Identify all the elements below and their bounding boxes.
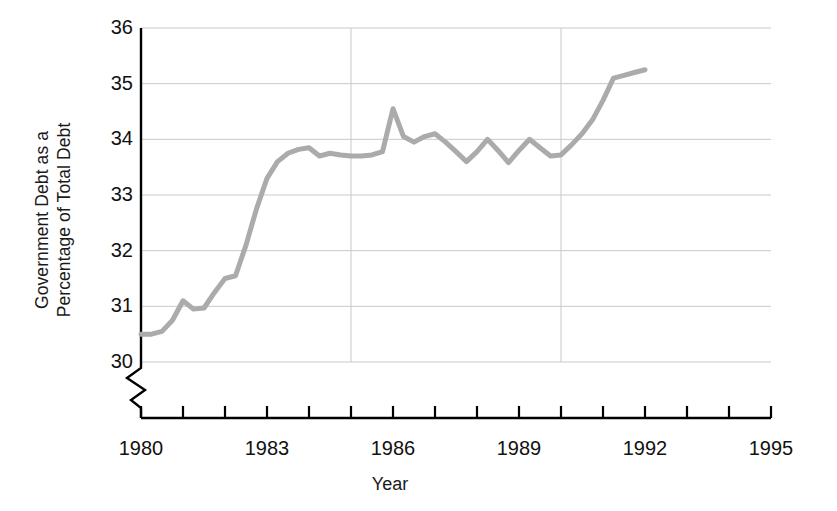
- x-tick-label-1983: 1983: [222, 437, 312, 459]
- y-tick-label-34: 34: [15, 128, 133, 148]
- y-tick-label-32: 32: [15, 240, 133, 260]
- axis-lines: [127, 28, 771, 418]
- x-tick-label-1992: 1992: [600, 437, 690, 459]
- x-axis-tick-labels: 198019831986198919921995: [0, 437, 837, 465]
- y-tick-label-35: 35: [15, 73, 133, 93]
- y-tick-label-33: 33: [15, 184, 133, 204]
- chart-figure: Government Debt as a Percentage of Total…: [0, 0, 837, 511]
- data-series-line: [141, 70, 645, 334]
- x-axis-tick-marks: [141, 406, 771, 418]
- x-tick-label-1986: 1986: [348, 437, 438, 459]
- horizontal-gridlines: [141, 28, 771, 362]
- y-tick-label-36: 36: [15, 17, 133, 37]
- x-tick-label-1995: 1995: [726, 437, 816, 459]
- x-tick-label-1980: 1980: [96, 437, 186, 459]
- y-tick-label-31: 31: [15, 295, 133, 315]
- x-tick-label-1989: 1989: [474, 437, 564, 459]
- y-tick-label-30: 30: [15, 351, 133, 371]
- x-axis-title: Year: [0, 474, 780, 495]
- y-axis-tick-labels: 30313233343536: [0, 0, 133, 400]
